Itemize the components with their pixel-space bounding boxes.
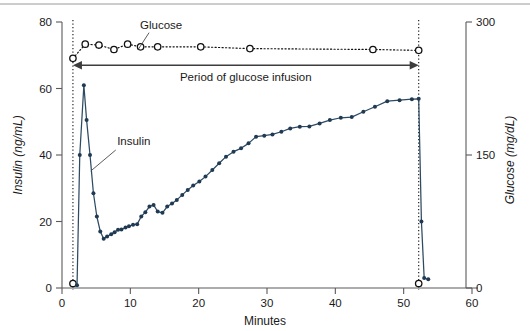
infusion-period-label: Period of glucose infusion (180, 71, 312, 83)
insulin-point (143, 210, 147, 214)
x-tick-label-30: 30 (261, 297, 274, 309)
x-tick-label-50: 50 (397, 297, 410, 309)
insulin-series (75, 83, 430, 287)
glucose-point (96, 42, 102, 48)
insulin-point (113, 230, 117, 234)
insulin-point (160, 211, 164, 215)
insulin-point (135, 222, 139, 226)
y2-tick-label-300: 300 (476, 16, 495, 28)
insulin-line (77, 85, 428, 285)
insulin-point (78, 153, 82, 157)
insulin-point (75, 283, 79, 287)
insulin-point (318, 121, 322, 125)
insulin-point (197, 180, 201, 184)
insulin-point (426, 277, 430, 281)
insulin-point (239, 146, 243, 150)
insulin-point (328, 118, 332, 122)
insulin-point (102, 237, 106, 241)
infusion-arrow-head-left (73, 61, 82, 69)
insulin-point (116, 228, 120, 232)
glucose-point (198, 44, 204, 50)
insulin-point (410, 97, 414, 101)
glucose-point (370, 46, 376, 52)
vertical-marker-group (73, 20, 419, 290)
insulin-point (91, 191, 95, 195)
y2-axis-title: Glucose (mg/dL) (503, 116, 517, 205)
insulin-point (95, 215, 99, 219)
insulin-point (186, 188, 190, 192)
insulin-point (175, 198, 179, 202)
y-tick-label-60: 60 (39, 83, 52, 95)
insulin-point (247, 141, 251, 145)
y-axis-title: Insulin (ng/mL) (11, 115, 25, 194)
insulin-point (232, 150, 236, 154)
glucose-point (154, 44, 160, 50)
insulin-point (152, 203, 156, 207)
insulin-point (350, 115, 354, 119)
glucose-point (416, 280, 422, 286)
insulin-point (119, 227, 123, 231)
x-tick-label-20: 20 (192, 297, 205, 309)
insulin-point (88, 153, 92, 157)
insulin-point (131, 223, 135, 227)
y-tick-label-40: 40 (39, 149, 52, 161)
glucose-point (111, 46, 117, 52)
insulin-point (224, 155, 228, 159)
glucose-point (124, 41, 130, 47)
x-tick-label-0: 0 (59, 297, 65, 309)
insulin-point (85, 118, 89, 122)
insulin-point (204, 175, 208, 179)
insulin-point (191, 184, 195, 188)
infusion-arrow-head-right (410, 61, 419, 69)
x-tick-label-40: 40 (329, 297, 342, 309)
insulin-leader-line (91, 150, 116, 171)
insulin-point (165, 205, 169, 209)
y2-tick-label-150: 150 (476, 149, 495, 161)
y-tick-label-80: 80 (39, 16, 52, 28)
insulin-point (170, 202, 174, 206)
insulin-point (307, 124, 311, 128)
insulin-point (147, 205, 151, 209)
insulin-point (127, 224, 131, 228)
insulin-point (105, 234, 109, 238)
x-tick-label-60: 60 (466, 297, 479, 309)
insulin-point (288, 126, 292, 130)
x-axis-title: Minutes (244, 314, 286, 328)
insulin-point (422, 276, 426, 280)
insulin-point (210, 168, 214, 172)
insulin-point (279, 130, 283, 134)
insulin-point (385, 99, 389, 103)
insulin-point (262, 134, 266, 138)
y-tick-label-20: 20 (39, 216, 52, 228)
glucose-point (416, 47, 422, 53)
y2-tick-label-0: 0 (476, 282, 482, 294)
insulin-point (298, 125, 302, 129)
insulin-point (217, 161, 221, 165)
insulin-point (82, 83, 86, 87)
insulin-point (139, 215, 143, 219)
insulin-point (417, 97, 421, 101)
insulin-point (373, 105, 377, 109)
insulin-series-label: Insulin (117, 135, 150, 147)
insulin-point (270, 132, 274, 136)
insulin-point (156, 210, 160, 214)
y-tick-label-0: 0 (46, 282, 52, 294)
glucose-point (82, 41, 88, 47)
insulin-point (361, 110, 365, 114)
glucose-point (247, 45, 253, 51)
insulin-point (419, 220, 423, 224)
insulin-point (339, 116, 343, 120)
insulin-point (180, 193, 184, 197)
tick-group (56, 22, 472, 294)
axes-group (62, 22, 478, 288)
annotation-group: Period of glucose infusionGlucoseInsulin (73, 19, 419, 171)
insulin-point (124, 225, 128, 229)
glucose-point (70, 55, 76, 61)
insulin-point (109, 232, 113, 236)
chart-figure: 01020304050600204060800150300 Period of … (0, 0, 530, 331)
insulin-point (398, 98, 402, 102)
chart-svg: 01020304050600204060800150300 Period of … (0, 0, 530, 331)
x-tick-label-10: 10 (124, 297, 137, 309)
tick-label-group: 01020304050600204060800150300 (39, 16, 495, 309)
insulin-point (98, 229, 102, 233)
